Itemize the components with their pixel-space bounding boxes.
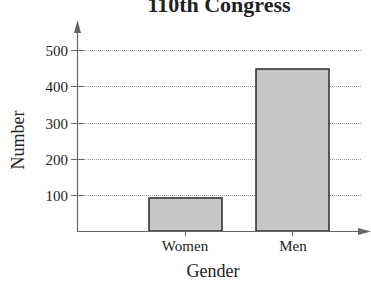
y-tick-400: 400	[46, 79, 69, 95]
bar-chart: 110th Congress 500 400 300 200 100	[0, 0, 371, 282]
bar-men	[256, 69, 329, 231]
y-tick-300: 300	[46, 116, 69, 132]
x-axis-arrow-icon	[358, 228, 371, 235]
y-tick-100: 100	[46, 188, 69, 204]
x-axis-label: Gender	[187, 261, 240, 281]
chart-title: 110th Congress	[147, 0, 291, 17]
y-tick-500: 500	[46, 43, 69, 59]
category-label-women: Women	[162, 238, 209, 254]
category-label-men: Men	[279, 238, 307, 254]
bar-women	[149, 198, 222, 231]
y-tick-200: 200	[46, 152, 69, 168]
y-axis-arrow-icon	[74, 20, 81, 33]
y-axis-label: Number	[8, 111, 28, 170]
